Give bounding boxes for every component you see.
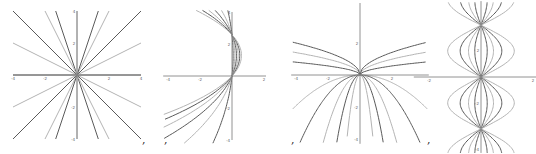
x-tick-label: -4	[294, 76, 298, 81]
x-tick-label: -2	[326, 76, 330, 81]
x-tick-label: 4	[140, 76, 143, 81]
y-tick-label: -4	[71, 137, 75, 142]
y-tick-label: 4	[228, 10, 231, 15]
x-tick-label: 2	[532, 78, 535, 83]
parabola-curve	[164, 10, 236, 138]
parabola-curve	[165, 10, 240, 119]
separator-comma: ,	[164, 133, 168, 146]
x-tick-label: 2	[391, 76, 394, 81]
y-tick-label: 2	[477, 48, 480, 53]
y-tick-label: 2	[228, 42, 231, 47]
separator-comma: ,	[427, 133, 431, 146]
x-tick-label: -4	[166, 77, 170, 82]
upper-curve	[293, 42, 426, 75]
y-tick-label: -4	[354, 137, 358, 142]
y-tick-label: -2	[475, 101, 479, 106]
y-tick-label: 2	[73, 41, 76, 46]
y-tick-label: -2	[226, 106, 230, 111]
y-tick-label: -2	[71, 105, 75, 110]
y-tick-label: -2	[354, 105, 358, 110]
x-tick-label: -2	[427, 78, 431, 83]
separator-comma: ,	[291, 133, 295, 146]
x-tick-label: -2	[198, 77, 202, 82]
y-tick-label: 4	[73, 9, 76, 14]
y-tick-label: -4	[475, 147, 479, 152]
y-tick-label: 2	[356, 41, 359, 46]
x-tick-label: 2	[108, 76, 111, 81]
separator-comma: ,	[142, 133, 146, 146]
x-tick-label: -2	[43, 76, 47, 81]
figure: -4-22442-2-4,-4-2242-2-4,,-4-222-2-4,-22…	[0, 0, 536, 154]
parabola-curve	[164, 10, 242, 114]
x-tick-label: 2	[263, 77, 266, 82]
y-tick-label: -4	[226, 138, 230, 143]
x-tick-label: -4	[11, 76, 15, 81]
